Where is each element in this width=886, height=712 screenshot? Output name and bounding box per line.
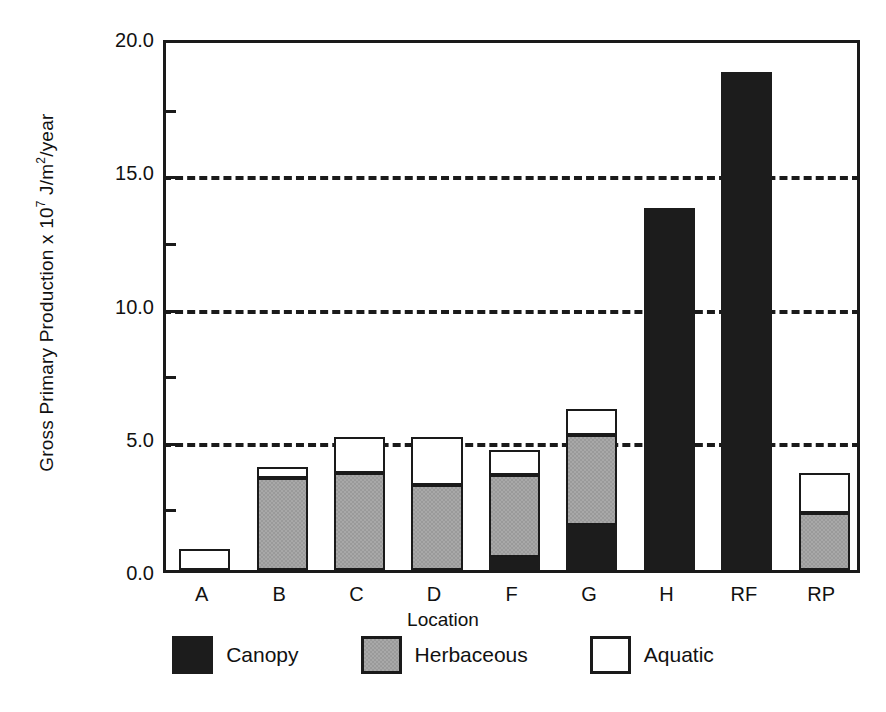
legend-label: Herbaceous bbox=[415, 643, 528, 667]
y-axis-tick-labels: 0.05.010.015.020.0 bbox=[80, 0, 154, 712]
y-tick-label: 15.0 bbox=[80, 163, 154, 183]
x-tick-label-c: C bbox=[318, 583, 395, 606]
bar-segment-canopy bbox=[566, 525, 617, 570]
y-tick-major bbox=[163, 176, 176, 179]
legend-swatch-herb-icon bbox=[361, 636, 402, 674]
y-tick-major bbox=[163, 443, 176, 446]
legend-swatch-canopy-icon bbox=[172, 636, 213, 674]
bar-rp bbox=[799, 37, 850, 570]
bar-h bbox=[644, 37, 695, 570]
chart-legend: CanopyHerbaceousAquatic bbox=[0, 636, 886, 674]
y-tick-label: 5.0 bbox=[80, 430, 154, 450]
legend-item-canopy: Canopy bbox=[172, 636, 298, 674]
bar-segment-herb bbox=[566, 435, 617, 524]
legend-label: Aquatic bbox=[644, 643, 714, 667]
bar-segment-herb bbox=[257, 478, 308, 570]
bar-segment-aquatic bbox=[489, 450, 540, 475]
y-axis-title-exponent: 7 bbox=[34, 200, 48, 207]
bar-segment-aquatic bbox=[411, 437, 462, 485]
bar-a bbox=[179, 37, 230, 570]
bar-rf bbox=[721, 37, 772, 570]
x-tick-label-a: A bbox=[163, 583, 240, 606]
y-axis-title-prefix: Gross Primary Production x 10 bbox=[36, 207, 57, 472]
chart-figure: Gross Primary Production x 107 J/m2/year… bbox=[0, 0, 886, 712]
x-tick-label-d: D bbox=[395, 583, 472, 606]
bar-segment-aquatic bbox=[257, 467, 308, 478]
y-tick-minor bbox=[163, 509, 176, 512]
bar-segment-aquatic bbox=[799, 473, 850, 513]
y-tick-minor bbox=[163, 110, 176, 113]
legend-item-aquatic: Aquatic bbox=[590, 636, 714, 674]
bar-c bbox=[334, 37, 385, 570]
bar-segment-herb bbox=[334, 473, 385, 570]
y-tick-label: 20.0 bbox=[80, 30, 154, 50]
x-tick-label-h: H bbox=[628, 583, 705, 606]
legend-item-herb: Herbaceous bbox=[361, 636, 528, 674]
bar-segment-aquatic bbox=[179, 549, 230, 570]
y-tick-label: 0.0 bbox=[80, 563, 154, 583]
x-tick-label-b: B bbox=[240, 583, 317, 606]
bar-b bbox=[257, 37, 308, 570]
y-axis-title: Gross Primary Production x 107 J/m2/year bbox=[34, 33, 57, 553]
x-tick-label-g: G bbox=[550, 583, 627, 606]
bar-segment-herb bbox=[411, 485, 462, 570]
plot-inner bbox=[166, 43, 857, 570]
y-tick-minor bbox=[163, 376, 176, 379]
bar-segment-aquatic bbox=[334, 437, 385, 473]
bar-segment-herb bbox=[799, 513, 850, 570]
x-axis-title: Location bbox=[0, 609, 886, 631]
y-axis-title-exponent2: 2 bbox=[34, 157, 48, 164]
x-tick-label-rp: RP bbox=[783, 583, 860, 606]
y-tick-label: 10.0 bbox=[80, 297, 154, 317]
bar-f bbox=[489, 37, 540, 570]
bar-segment-canopy bbox=[721, 72, 772, 570]
bar-segment-canopy bbox=[489, 557, 540, 570]
y-axis-title-mid: J/m bbox=[36, 164, 57, 201]
bar-segment-canopy bbox=[644, 208, 695, 570]
bar-d bbox=[411, 37, 462, 570]
x-tick-label-f: F bbox=[473, 583, 550, 606]
legend-label: Canopy bbox=[226, 643, 298, 667]
bar-segment-herb bbox=[489, 475, 540, 556]
y-tick-minor bbox=[163, 243, 176, 246]
y-axis-title-suffix: /year bbox=[36, 114, 57, 157]
x-tick-label-rf: RF bbox=[705, 583, 782, 606]
bar-g bbox=[566, 37, 617, 570]
bar-segment-aquatic bbox=[566, 409, 617, 436]
y-tick-major bbox=[163, 310, 176, 313]
legend-swatch-aquatic-icon bbox=[590, 636, 631, 674]
plot-area bbox=[163, 40, 860, 573]
